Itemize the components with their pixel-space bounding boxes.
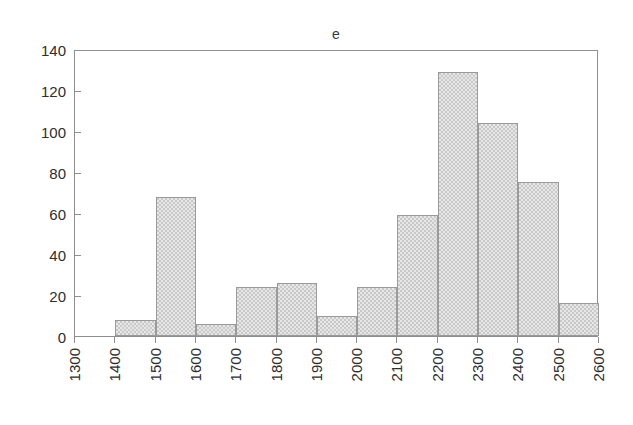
x-tick-mark: [235, 337, 236, 343]
y-tick-mark: [74, 214, 81, 215]
x-tick-mark: [114, 337, 115, 343]
y-tick-label: 100: [8, 125, 66, 140]
bar: [397, 215, 437, 336]
x-tick-mark: [437, 337, 438, 343]
y-tick-label: 80: [8, 166, 66, 181]
x-tick-mark: [396, 337, 397, 343]
x-tick-label: 1400: [107, 348, 122, 404]
x-tick-label: 1500: [148, 348, 163, 404]
bar: [115, 320, 155, 336]
y-tick-label: 20: [8, 289, 66, 304]
x-tick-mark: [74, 337, 75, 343]
bar: [478, 123, 518, 336]
x-tick-label: 2200: [430, 348, 445, 404]
y-tick-label: 120: [8, 84, 66, 99]
chart-title: e: [74, 26, 598, 42]
x-tick-mark: [356, 337, 357, 343]
x-tick-mark: [477, 337, 478, 343]
x-tick-mark: [517, 337, 518, 343]
x-tick-label: 1800: [269, 348, 284, 404]
y-tick-label: 40: [8, 248, 66, 263]
x-tick-mark: [276, 337, 277, 343]
bar: [518, 182, 558, 336]
plot-area: [74, 50, 598, 337]
x-tick-label: 2300: [470, 348, 485, 404]
x-tick-mark: [155, 337, 156, 343]
bar: [559, 303, 599, 336]
bars-layer: [75, 51, 597, 336]
bar: [277, 283, 317, 336]
x-tick-mark: [558, 337, 559, 343]
bar: [156, 197, 196, 336]
x-tick-mark: [195, 337, 196, 343]
x-tick-label: 1600: [188, 348, 203, 404]
bar: [438, 72, 478, 336]
bar: [236, 287, 276, 336]
x-tick-label: 1900: [309, 348, 324, 404]
y-tick-mark: [74, 173, 81, 174]
y-tick-mark: [74, 296, 81, 297]
x-tick-label: 2000: [349, 348, 364, 404]
histogram-chart: e 020406080100120140 1300140015001600170…: [0, 0, 633, 425]
bar: [357, 287, 397, 336]
x-tick-label: 2500: [551, 348, 566, 404]
x-tick-label: 2600: [591, 348, 606, 404]
y-tick-mark: [74, 132, 81, 133]
y-tick-label: 60: [8, 207, 66, 222]
x-tick-label: 1700: [228, 348, 243, 404]
x-tick-label: 2400: [510, 348, 525, 404]
x-tick-label: 2100: [389, 348, 404, 404]
y-tick-label: 140: [8, 43, 66, 58]
y-tick-mark: [74, 255, 81, 256]
x-tick-label: 1300: [67, 348, 82, 404]
y-tick-label: 0: [8, 330, 66, 345]
y-tick-mark: [74, 91, 81, 92]
x-tick-mark: [316, 337, 317, 343]
y-axis: 020406080100120140: [4, 0, 66, 425]
x-tick-mark: [598, 337, 599, 343]
bar: [317, 316, 357, 337]
bar: [196, 324, 236, 336]
